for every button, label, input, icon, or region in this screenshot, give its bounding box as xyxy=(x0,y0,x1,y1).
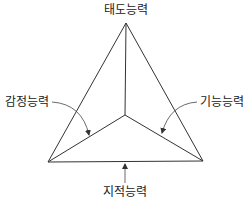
edge-left-center xyxy=(48,115,125,162)
label-intellectual-ability: 지적능력 xyxy=(103,185,147,199)
label-skill-ability: 기능능력 xyxy=(200,95,244,109)
diagram-canvas: 태도능력 감정능력 기능능력 지적능력 xyxy=(0,0,246,224)
edge-top-center xyxy=(125,23,126,115)
label-attitude-ability: 태도능력 xyxy=(104,3,148,17)
edge-right-center xyxy=(125,115,203,161)
arrow-right xyxy=(162,102,197,133)
label-emotional-ability: 감정능력 xyxy=(5,95,49,109)
arrow-left xyxy=(52,102,89,135)
